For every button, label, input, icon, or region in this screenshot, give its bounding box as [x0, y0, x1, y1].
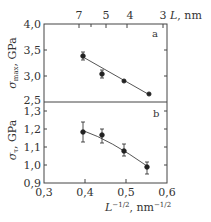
top-tick-label: 4 — [127, 9, 134, 22]
top-axis-ticks — [79, 24, 163, 28]
panel-b-y-axis-label: στ, GPa — [6, 119, 20, 160]
panel-a-y-axis-label: σmax, GPa — [6, 37, 20, 89]
y-tick-label: 1,0 — [24, 159, 42, 172]
panel-b-label: b — [153, 108, 159, 119]
x-tick-label: 0,6 — [158, 186, 176, 199]
top-tick-label: 7 — [76, 9, 83, 22]
chart-figure: 7 5 4 3 L, nm 4,0 3,5 3,0 2,5 σmax, GPa … — [0, 0, 211, 222]
x-axis-ticks — [85, 179, 126, 183]
top-tick-label: 5 — [103, 9, 110, 22]
panel-b-points — [81, 122, 150, 174]
panel-a-y-ticks — [44, 50, 167, 76]
y-tick-label: 4,0 — [24, 18, 42, 31]
panel-b-y-ticks — [44, 111, 167, 165]
top-axis-label: L, nm — [169, 9, 202, 22]
y-tick-label: 3,5 — [24, 44, 42, 57]
y-tick-label: 3,0 — [24, 70, 42, 83]
panel-b-fit-curve — [84, 131, 147, 166]
x-tick-label: 0,5 — [117, 186, 135, 199]
x-axis-label: L−1/2, nm−1/2 — [104, 201, 171, 214]
y-tick-label: 1,3 — [24, 105, 42, 118]
y-tick-label: 1,2 — [24, 123, 42, 136]
panel-a-label: a — [152, 28, 158, 39]
panel-a-fit-line — [83, 57, 148, 94]
y-tick-label: 1,1 — [24, 141, 42, 154]
plot-frame — [44, 24, 167, 183]
x-tick-label: 0,3 — [35, 186, 53, 199]
x-tick-label: 0,4 — [76, 186, 94, 199]
top-tick-label: 3 — [160, 9, 167, 22]
